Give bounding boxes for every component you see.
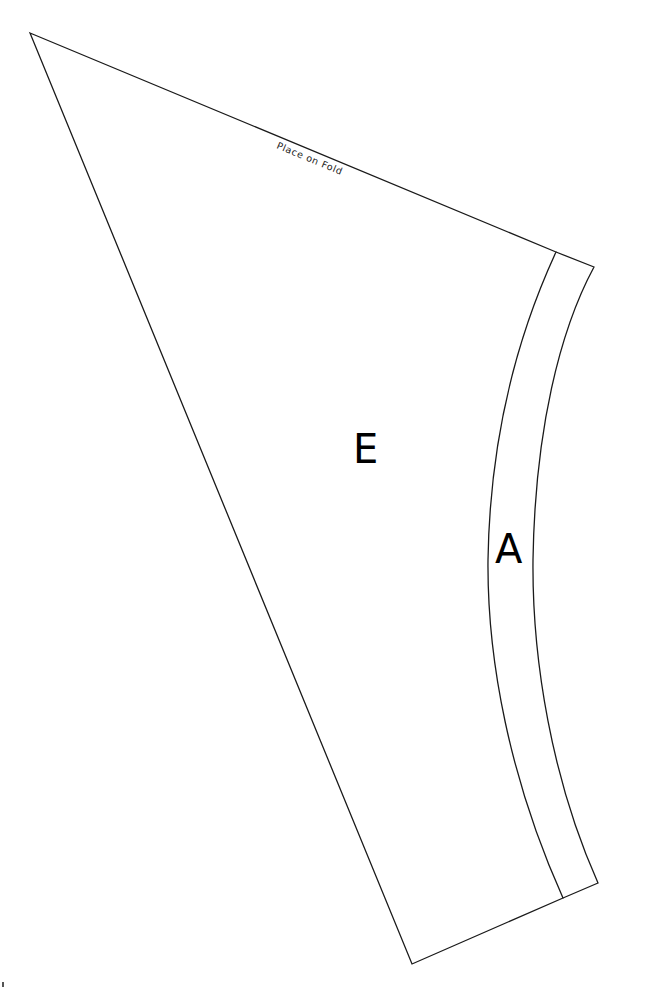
- piece-e-label: E: [353, 426, 378, 472]
- piece-e-outline: [30, 33, 563, 964]
- piece-a-label: A: [495, 526, 523, 572]
- fold-label: Place on Fold: [275, 140, 344, 177]
- piece-a-outline: [533, 252, 598, 898]
- pattern-canvas: Place on Fold E A: [0, 0, 658, 988]
- corner-artifact: [2, 982, 4, 987]
